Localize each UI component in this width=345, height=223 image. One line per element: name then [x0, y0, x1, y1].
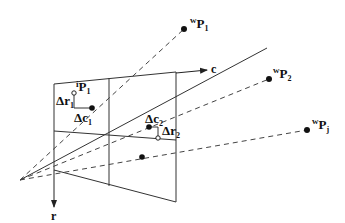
- projection-diagram: c r wP1 wP2 wPj iP1 Δr1 Δc1 Δc2 Δr2: [0, 0, 345, 223]
- column-axis-arrow: [176, 70, 207, 73]
- label-wPj: wPj: [312, 116, 329, 134]
- image-point-j-marker: [139, 154, 145, 160]
- label-delta-r2: Δr2: [162, 123, 180, 140]
- row-axis-label: r: [51, 209, 57, 223]
- label-wP1: wP1: [190, 15, 208, 33]
- label-wP2: wP2: [273, 65, 291, 83]
- image-point-1-observed: [89, 105, 95, 111]
- world-point-j-marker: [304, 127, 310, 133]
- ray-wP1: [20, 29, 184, 180]
- image-point-1-ideal: [72, 91, 76, 95]
- label-iP1: iP1: [76, 79, 90, 96]
- column-axis-label: c: [211, 62, 217, 76]
- world-point-1-marker: [181, 26, 187, 32]
- offset-bracket-1: [74, 95, 92, 108]
- label-delta-r1: Δr1: [56, 93, 74, 110]
- label-delta-c1: Δc1: [74, 110, 92, 127]
- world-point-2-marker: [266, 76, 272, 82]
- optical-axis: [20, 48, 267, 180]
- label-delta-c2: Δc2: [145, 111, 163, 128]
- diagram-canvas: c r wP1 wP2 wPj iP1 Δr1 Δc1 Δc2 Δr2: [0, 0, 345, 223]
- image-point-2-ideal: [156, 136, 160, 140]
